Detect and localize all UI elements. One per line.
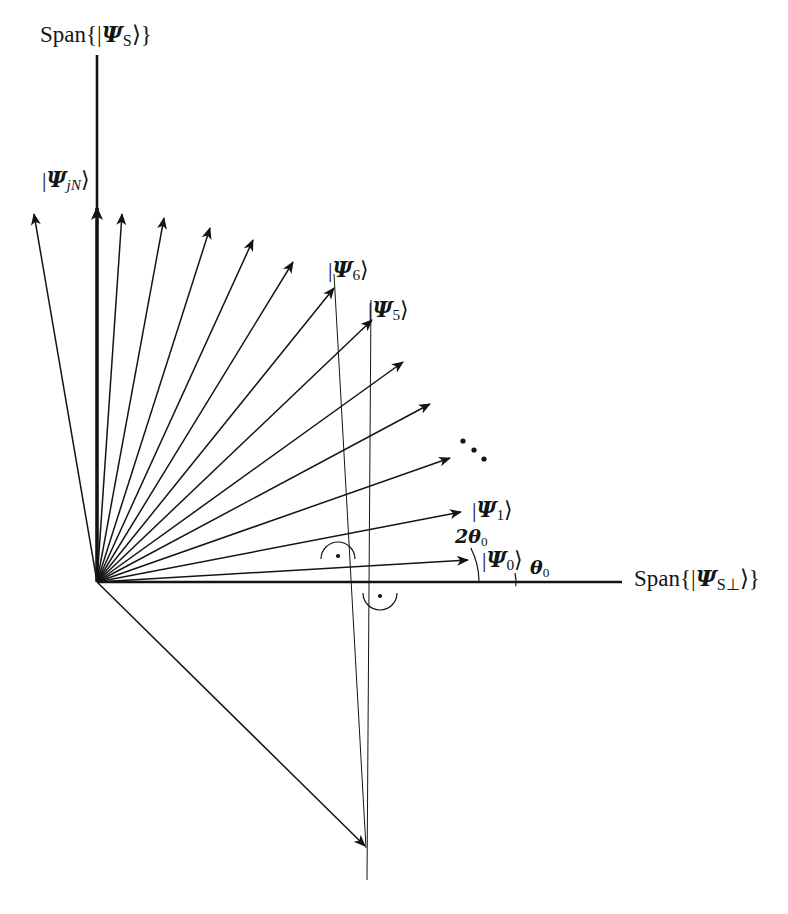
vector-label-psi1: |Ψ1⟩ [472,498,513,523]
span-prefix-vertical: Span{ [40,22,97,47]
vector-label-psi0: |Ψ0⟩ [482,548,523,573]
angle-label-theta0: θ0 [530,558,549,579]
ellipsis-dots-group [460,438,486,461]
span-prefix-horizontal: Span{ [634,566,691,591]
psi-glyph-horizontal: Ψ [696,564,717,591]
ket-close-psi5: ⟩ [400,297,409,322]
vector-psi6 [97,288,334,582]
vector-label-psi6: |Ψ6⟩ [328,258,369,283]
psi-subscript-horizontal: S⊥ [717,576,740,593]
right-angle-dot-lower [378,594,382,598]
angle-glyph-theta0: θ [530,556,543,578]
ellipsis-dot-2 [471,447,476,452]
ket-close-vertical: ⟩ [132,22,141,47]
vector-label-psijn: |ΨjN⟩ [42,168,90,193]
angle-label-two-theta0: 2θ0 [455,527,488,548]
psi-glyph-psi6: Ψ [332,256,352,282]
psi-subscript-psijn: jN [67,176,82,193]
vector-psi-down [97,582,365,846]
right-angle-dot-upper [336,554,340,558]
vector-psijn [97,214,122,582]
vector-psi2 [97,458,450,582]
right-angle-marks-group [321,542,397,610]
psi-glyph-psi1: Ψ [476,496,496,522]
guide-line-guide-psi6 [334,274,366,848]
angle-subscript-theta0: 0 [543,565,550,580]
ket-close-psi6: ⟩ [360,257,369,282]
angle-glyph-two-theta0: 2θ [455,525,481,547]
vector-psi3 [97,404,430,582]
figure-canvas: Span{|ΨS⟩} Span{|ΨS⊥⟩} |Ψ0⟩|Ψ1⟩|Ψ5⟩|Ψ6⟩|… [0,0,788,914]
ket-close-horizontal: ⟩ [740,566,749,591]
span-suffix-horizontal: } [749,566,760,591]
axes-group [97,55,622,582]
span-suffix-vertical: } [141,22,152,47]
ellipsis-dot-1 [460,438,465,443]
vector-diagram-svg [0,0,788,914]
psi-glyph-psijn: Ψ [46,166,66,192]
ket-close-psi0: ⟩ [514,547,523,572]
guide-lines-group [334,274,371,880]
psi-glyph-psi5: Ψ [372,296,392,322]
psi-subscript-vertical: S [123,32,132,49]
psi-glyph-vertical: Ψ [102,20,123,47]
vector-psi-leftmost [34,214,97,582]
vector-label-psi5: |Ψ5⟩ [368,298,409,323]
ellipsis-dot-3 [481,456,486,461]
horizontal-axis-label: Span{|ΨS⊥⟩} [634,566,760,593]
ket-close-psi1: ⟩ [504,497,513,522]
vector-psi8 [97,240,253,582]
ket-close-psijn: ⟩ [81,167,90,192]
angle-arc-theta0 [515,573,516,586]
vertical-axis-label: Span{|ΨS⟩} [40,22,152,49]
psi-glyph-psi0: Ψ [486,546,506,572]
angle-subscript-two-theta0: 0 [481,534,488,549]
angle-arc-two-theta0 [471,548,479,581]
vector-psi4 [97,362,403,582]
